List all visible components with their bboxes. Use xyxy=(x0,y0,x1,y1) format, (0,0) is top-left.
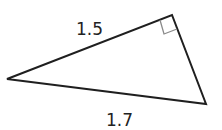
side-label-top: 1.5 xyxy=(76,19,103,39)
triangle-diagram: 1.5 1.7 xyxy=(0,0,222,130)
side-label-bottom: 1.7 xyxy=(106,110,133,130)
triangle xyxy=(7,15,206,104)
